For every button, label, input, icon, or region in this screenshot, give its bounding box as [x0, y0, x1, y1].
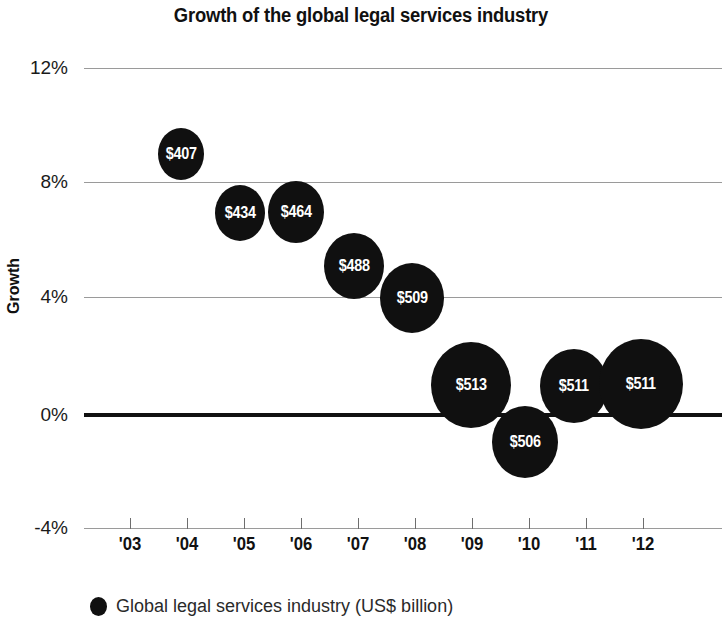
x-tick-label: '10 — [503, 533, 556, 555]
data-bubble[interactable]: $407 — [158, 128, 204, 180]
x-tick-label: '12 — [617, 533, 670, 555]
x-tick — [244, 518, 245, 529]
x-tick — [358, 518, 359, 529]
data-bubble-label: $464 — [281, 203, 312, 221]
data-bubble-label: $506 — [510, 433, 541, 451]
plot-area: 12%8%4%0%-4%$407$434$464$488$509$513$506… — [84, 68, 722, 528]
data-bubble-label: $511 — [626, 375, 656, 393]
data-bubble[interactable]: $434 — [215, 185, 265, 241]
data-bubble[interactable]: $464 — [268, 181, 324, 243]
x-tick — [187, 518, 188, 529]
data-bubble-label: $407 — [166, 145, 197, 163]
data-bubble-label: $434 — [225, 204, 256, 222]
x-tick-label: '05 — [218, 533, 271, 555]
x-tick-label: '11 — [560, 533, 613, 555]
data-bubble[interactable]: $488 — [324, 233, 384, 299]
y-tick-label: 12% — [0, 57, 68, 79]
data-bubble[interactable]: $509 — [380, 263, 444, 333]
y-tick-label: 0% — [0, 404, 68, 426]
x-tick — [130, 518, 131, 529]
y-tick-label: -4% — [0, 517, 68, 539]
gridline — [84, 182, 722, 183]
x-tick — [586, 518, 587, 529]
x-tick — [529, 518, 530, 529]
data-bubble-label: $513 — [456, 376, 487, 394]
x-tick-label: '08 — [389, 533, 442, 555]
x-tick-label: '07 — [332, 533, 385, 555]
data-bubble-label: $488 — [339, 257, 370, 275]
y-tick-label: 8% — [0, 171, 68, 193]
legend-circle-icon — [90, 597, 107, 616]
legend-label: Global legal services industry (US$ bill… — [116, 596, 453, 617]
x-tick — [472, 518, 473, 529]
chart-title: Growth of the global legal services indu… — [29, 4, 693, 27]
x-tick — [301, 518, 302, 529]
x-tick — [643, 518, 644, 529]
data-bubble-label: $511 — [559, 377, 589, 395]
data-bubble[interactable]: $511 — [540, 349, 608, 423]
x-tick-label: '09 — [446, 533, 499, 555]
data-bubble[interactable]: $513 — [431, 342, 511, 428]
bubble-chart: Growth of the global legal services indu… — [0, 0, 722, 628]
x-tick-label: '04 — [161, 533, 214, 555]
y-tick-label: 4% — [0, 286, 68, 308]
x-tick — [415, 518, 416, 529]
data-bubble[interactable]: $506 — [492, 406, 558, 478]
legend: Global legal services industry (US$ bill… — [90, 596, 453, 617]
x-tick-label: '03 — [104, 533, 157, 555]
gridline — [84, 68, 722, 69]
data-bubble[interactable]: $511 — [599, 339, 683, 429]
x-axis-line — [84, 528, 722, 529]
x-tick-label: '06 — [275, 533, 328, 555]
data-bubble-label: $509 — [397, 289, 428, 307]
